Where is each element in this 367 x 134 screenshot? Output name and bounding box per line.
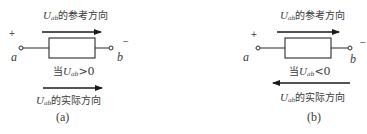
condition-label-a: 当Uab>0	[53, 65, 95, 80]
minus-sign-a: −	[123, 36, 129, 48]
terminal-a-circle	[19, 46, 23, 50]
terminal-a-label: a	[243, 51, 249, 63]
caption-a: (a)	[56, 111, 69, 123]
reference-direction-label-a: Uab的参考方向	[43, 9, 108, 24]
resistor-a	[49, 38, 95, 58]
minus-sign-b: −	[360, 37, 366, 49]
plus-sign-a: +	[9, 28, 15, 40]
actual-direction-label-a: Uab的实际方向	[36, 94, 101, 109]
terminal-b-circle	[109, 46, 113, 50]
resistor-b	[285, 38, 331, 58]
plus-sign-b: +	[251, 29, 257, 41]
actual-direction-label-b: Uab的实际方向	[280, 91, 345, 106]
terminal-b-circle	[348, 46, 352, 50]
terminal-b-label: b	[350, 53, 356, 65]
caption-b: (b)	[307, 111, 321, 123]
terminal-a-label: a	[11, 51, 17, 63]
terminal-a-circle	[256, 46, 260, 50]
condition-label-b: 当Uab<0	[289, 65, 331, 80]
reference-direction-label-b: Uab的参考方向	[280, 9, 345, 24]
terminal-b-label: b	[117, 51, 123, 63]
